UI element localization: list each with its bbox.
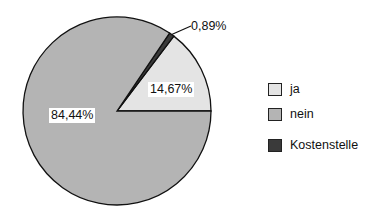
legend-item-kostenstelle: Kostenstelle	[268, 138, 358, 152]
legend-item-ja: ja	[268, 82, 300, 96]
legend-label-nein: nein	[290, 107, 314, 121]
label-nein-value: 84,44%	[49, 108, 95, 123]
legend-swatch-ja	[268, 83, 282, 96]
label-ja-value: 14,67%	[148, 82, 194, 97]
label-kostenstelle-value: 0,89%	[189, 19, 228, 34]
legend-item-nein: nein	[268, 107, 314, 121]
legend-swatch-kostenstelle	[268, 139, 282, 152]
legend-label-ja: ja	[290, 82, 300, 96]
legend-swatch-nein	[268, 108, 282, 121]
legend-label-kostenstelle: Kostenstelle	[290, 138, 358, 152]
